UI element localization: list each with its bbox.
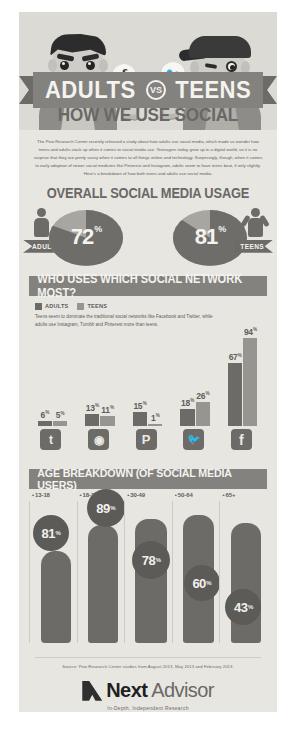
- bar-group: 13%11%: [85, 414, 115, 426]
- bar-tumblr-teens: 5%: [53, 421, 67, 426]
- bar-value-label: 1%: [148, 413, 162, 423]
- bar-pinterest-teens: 1%: [148, 424, 162, 426]
- age-column-65+: 65+43%: [219, 489, 267, 649]
- tumblr-icon[interactable]: t: [40, 429, 61, 450]
- age-range-label: 13-18: [32, 492, 50, 498]
- column-divider: [219, 501, 220, 643]
- infographic-page: f 🐦 ADULTS VS: [0, 0, 296, 736]
- network-section: WHO USES WHICH SOCIAL NETWORK MOST? ADUL…: [19, 276, 277, 459]
- brand-name-next: Next: [106, 679, 147, 702]
- page-subtitle: HOW WE USE SOCIAL MEDIA: [32, 104, 264, 130]
- age-range-label: 65+: [222, 492, 235, 498]
- nextadvisor-mark-icon: [82, 681, 102, 701]
- bar-value-label: 6%: [38, 410, 52, 420]
- age-column-50-64: 50-6460%: [172, 489, 220, 649]
- bar-value-label: 26%: [196, 391, 210, 401]
- bar-value-label: 18%: [180, 398, 194, 408]
- adults-pie-value: 72%: [49, 224, 123, 250]
- column-divider: [172, 501, 173, 643]
- age-column-13-18: 13-1881%: [29, 489, 77, 649]
- brand-logo: Next Advisor: [19, 679, 277, 702]
- title-ribbon: ADULTS VS TEENS: [19, 72, 277, 108]
- facebook-icon[interactable]: f: [231, 429, 252, 450]
- age-range-label: 30-49: [127, 492, 145, 498]
- pinterest-icon[interactable]: P: [136, 429, 157, 450]
- bar-group: 18%26%: [180, 402, 210, 426]
- teens-tag: TEENS: [235, 240, 273, 253]
- network-icon-row: t◉P🐦f: [29, 429, 267, 459]
- column-divider: [29, 501, 30, 643]
- bar-instagram-teens: 11%: [100, 416, 114, 426]
- bar-facebook-teens: 94%: [243, 338, 257, 426]
- legend-label-teens: TEENS: [87, 303, 107, 309]
- bar-value-label: 15%: [133, 401, 147, 411]
- legend-swatch-adults: [35, 303, 42, 310]
- bar-pinterest-adults: 15%: [133, 412, 147, 426]
- network-bar-chart: 6%5%13%11%15%1%18%26%67%94%: [29, 330, 267, 426]
- bar-group: 67%94%: [228, 338, 258, 426]
- versus-badge: VS: [146, 80, 166, 100]
- brand-tagline: In-Depth, Independent Research: [19, 705, 277, 711]
- bar-twitter-adults: 18%: [180, 409, 194, 426]
- bar-value-label: 67%: [228, 352, 242, 362]
- age-percent-badge: 60%: [184, 565, 220, 601]
- age-column-30-49: 30-4978%: [124, 489, 172, 649]
- bar-facebook-adults: 67%: [228, 363, 242, 426]
- bar-value-label: 11%: [100, 405, 114, 415]
- age-percent-badge: 81%: [33, 515, 69, 551]
- bar-value-label: 94%: [243, 327, 257, 337]
- network-heading: WHO USES WHICH SOCIAL NETWORK MOST?: [29, 276, 267, 296]
- legend-item-adults: ADULTS: [35, 303, 68, 310]
- overall-usage-section: OVERALL SOCIAL MEDIA USAGE ADULTS 72% 81…: [19, 184, 277, 276]
- bar-group: 15%1%: [133, 412, 163, 426]
- source-note: Source: Pew Research Center studies from…: [35, 657, 261, 669]
- legend-swatch-teens: [77, 303, 84, 310]
- twitter-icon[interactable]: 🐦: [183, 429, 204, 450]
- intro-paragraph: The Pew Research Center recently release…: [19, 130, 277, 184]
- poster-card: f 🐦 ADULTS VS: [19, 12, 277, 712]
- age-percent-badge: 89%: [87, 489, 125, 527]
- network-note: Teens seem to dominate the traditional s…: [19, 313, 277, 330]
- legend-item-teens: TEENS: [77, 303, 107, 310]
- person-silhouette: [41, 551, 71, 643]
- person-silhouette: [231, 523, 261, 643]
- bar-instagram-adults: 13%: [85, 414, 99, 426]
- column-divider: [124, 501, 125, 643]
- teen-figure-icon: [245, 208, 265, 238]
- legend-label-adults: ADULTS: [45, 303, 68, 309]
- instagram-icon[interactable]: ◉: [88, 429, 109, 450]
- hero-illustration: f 🐦 ADULTS VS: [19, 12, 277, 130]
- overall-usage-title: OVERALL SOCIAL MEDIA USAGE: [29, 186, 266, 201]
- brand-name-advisor: Advisor: [151, 679, 214, 702]
- age-heading: AGE BREAKDOWN (OF SOCIAL MEDIA USERS): [29, 469, 267, 489]
- person-silhouette: [135, 519, 167, 643]
- bar-value-label: 13%: [85, 403, 99, 413]
- age-column-18-29: 18-2989%: [77, 489, 125, 649]
- age-range-label: 50-64: [175, 492, 193, 498]
- age-breakdown-chart: 13-1881%18-2989%30-4978%50-6460%65+43%: [29, 489, 267, 649]
- column-divider: [77, 501, 78, 643]
- bar-twitter-teens: 26%: [196, 402, 210, 426]
- adult-figure-icon: [31, 208, 51, 238]
- bar-value-label: 5%: [53, 410, 67, 420]
- title-adults: ADULTS: [45, 76, 136, 104]
- adults-pie-chart: 72%: [49, 210, 123, 270]
- title-teens: TEENS: [175, 76, 251, 104]
- bar-tumblr-adults: 6%: [38, 421, 52, 427]
- bar-group: 6%5%: [38, 421, 68, 427]
- person-silhouette: [88, 525, 118, 643]
